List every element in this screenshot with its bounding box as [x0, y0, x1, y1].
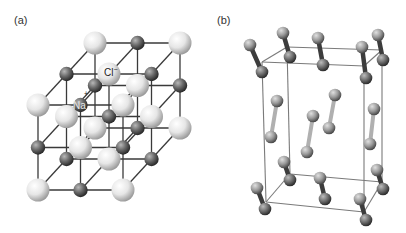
atom-sphere: [368, 103, 381, 116]
sodium-ion: [59, 67, 73, 81]
atom-sphere: [372, 29, 385, 42]
chloride-ion: [84, 32, 107, 55]
chloride-ion: [112, 94, 135, 117]
nacl-lattice-diagram: Cl− Na +: [0, 0, 203, 233]
diatomic-molecule: [312, 32, 330, 72]
sodium-ion: [144, 67, 158, 81]
atom-sphere: [354, 193, 367, 206]
sodium-ion: [116, 140, 130, 154]
atom-sphere: [360, 72, 373, 85]
atom-sphere: [259, 203, 272, 216]
sodium-ion: [130, 36, 144, 50]
chloride-ion: [169, 32, 192, 55]
chloride-ion: [140, 105, 163, 128]
diatomic-molecule: [265, 95, 284, 144]
atom-sphere: [371, 164, 384, 177]
atom-sphere: [278, 156, 291, 169]
sodium-ion: [173, 78, 187, 92]
chloride-ion: [112, 179, 135, 202]
diatomic-molecule: [354, 193, 373, 227]
atom-sphere: [312, 32, 325, 45]
molecular-crystal-diagram: [203, 0, 406, 233]
diatomic-molecule: [372, 29, 390, 67]
atom-sphere: [317, 59, 330, 72]
atom-sphere: [244, 39, 257, 52]
diatomic-molecule: [323, 89, 342, 135]
chloride-ion: [69, 136, 92, 159]
diatomic-molecule: [277, 27, 297, 64]
atom-sphere: [265, 131, 278, 144]
diatomic-molecule: [278, 156, 297, 187]
atom-sphere: [256, 66, 269, 79]
sodium-ion: [144, 152, 158, 166]
sodium-ion: [31, 140, 45, 154]
atom-sphere: [323, 122, 336, 135]
atom-sphere: [364, 138, 377, 151]
sodium-charge: +: [84, 90, 88, 97]
sodium-ion: [73, 183, 87, 197]
atom-sphere: [277, 27, 290, 40]
atom-sphere: [251, 182, 264, 195]
diatomic-molecule: [364, 103, 381, 151]
atom-sphere: [360, 214, 373, 227]
atom-sphere: [284, 174, 297, 187]
chloride-ion: [27, 94, 50, 117]
atom-sphere: [329, 89, 342, 102]
panel-b-molecular-crystal: (b): [203, 0, 406, 233]
diatomic-molecule: [314, 172, 332, 206]
diatomic-molecule: [244, 39, 269, 79]
atom-sphere: [307, 110, 320, 123]
atom-sphere: [284, 51, 297, 64]
diatomic-molecule: [371, 164, 390, 196]
sodium-label: Na: [73, 100, 86, 111]
diatomic-molecule: [301, 110, 320, 159]
atom-sphere: [377, 54, 390, 67]
diatomic-molecule: [356, 41, 373, 85]
atom-sphere: [301, 146, 314, 159]
diatomic-molecule: [251, 182, 272, 216]
chloride-ion: [27, 179, 50, 202]
atom-sphere: [271, 95, 284, 108]
atom-sphere: [314, 172, 327, 185]
atom-sphere: [356, 41, 369, 54]
panel-a-nacl-lattice: (a) Cl− Na +: [0, 0, 203, 233]
atom-sphere: [377, 183, 390, 196]
atom-sphere: [319, 193, 332, 206]
chloride-ion: [169, 117, 192, 140]
